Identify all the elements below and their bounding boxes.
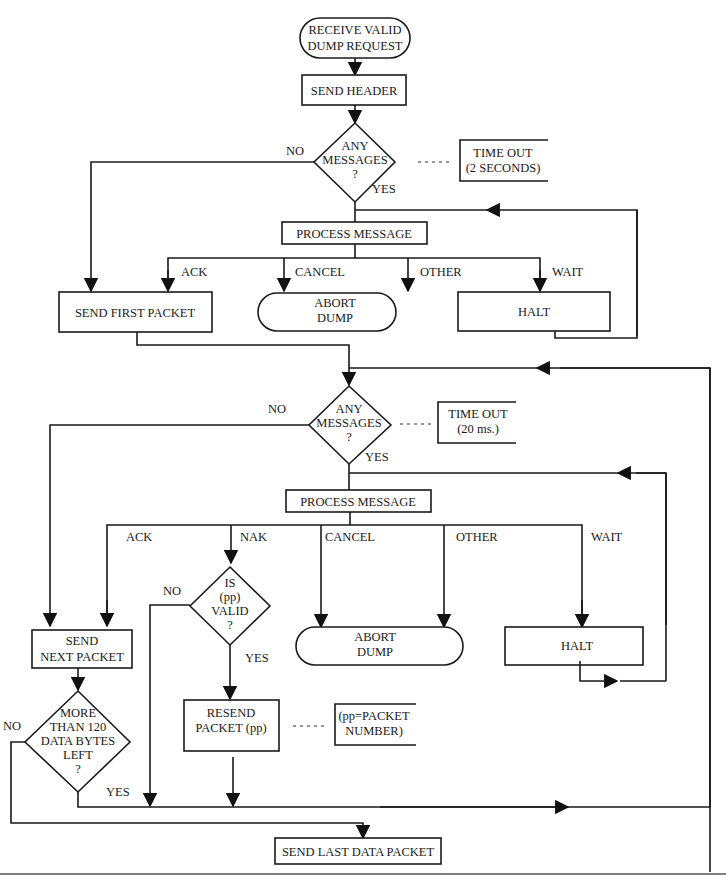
label-no-1: NO bbox=[286, 144, 304, 158]
pp-line-4: ? bbox=[227, 618, 233, 632]
label-yes-1: YES bbox=[372, 182, 396, 196]
decision1-line-1: ANY bbox=[341, 139, 368, 153]
halt-box-1: HALT bbox=[458, 292, 610, 331]
m120-line-4: LEFT bbox=[63, 748, 93, 762]
m120-line-3: DATA BYTES bbox=[41, 734, 115, 748]
label-yes-pp: YES bbox=[245, 651, 269, 665]
m120-line-5: ? bbox=[75, 762, 81, 776]
send-last-label: SEND LAST DATA PACKET bbox=[282, 845, 435, 859]
decision1-line-3: ? bbox=[352, 167, 358, 181]
send-first-packet-label: SEND FIRST PACKET bbox=[75, 306, 196, 320]
process1-label: PROCESS MESSAGE bbox=[296, 227, 412, 241]
process-message-box-2: PROCESS MESSAGE bbox=[286, 490, 431, 512]
label-wait-2: WAIT bbox=[591, 530, 623, 544]
abort-dump-terminal-2: ABORT DUMP bbox=[296, 627, 463, 665]
label-ack-1: ACK bbox=[181, 265, 207, 279]
more-than-120-decision: MORE THAN 120 DATA BYTES LEFT ? bbox=[25, 691, 130, 792]
abort1-line-1: ABORT bbox=[314, 296, 356, 310]
label-wait-1: WAIT bbox=[552, 265, 584, 279]
timeout-2-seconds-note: TIME OUT (2 SECONDS) bbox=[460, 140, 548, 181]
pp-note-line-1: (pp=PACKET bbox=[338, 709, 410, 723]
abort2-line-1: ABORT bbox=[354, 630, 396, 644]
label-cancel-1: CANCEL bbox=[295, 265, 345, 279]
abort1-line-2: DUMP bbox=[317, 311, 353, 325]
timeout2-line-2: (20 ms.) bbox=[457, 422, 499, 436]
abort2-line-2: DUMP bbox=[357, 645, 393, 659]
label-no-120: NO bbox=[3, 719, 21, 733]
label-nak-2: NAK bbox=[240, 530, 267, 544]
start-line-1: RECEIVE VALID bbox=[309, 23, 402, 37]
send-header-box: SEND HEADER bbox=[302, 75, 406, 105]
label-yes-2: YES bbox=[365, 450, 389, 464]
pp-note-line-2: NUMBER) bbox=[345, 724, 403, 738]
resend-line-2: PACKET (pp) bbox=[195, 721, 266, 735]
m120-line-1: MORE bbox=[60, 706, 96, 720]
label-ack-2: ACK bbox=[126, 530, 152, 544]
start-terminal: RECEIVE VALID DUMP REQUEST bbox=[300, 18, 410, 58]
label-other-1: OTHER bbox=[420, 265, 462, 279]
timeout1-line-2: (2 SECONDS) bbox=[466, 161, 541, 175]
label-no-2: NO bbox=[268, 402, 286, 416]
send-next-line-2: NEXT PACKET bbox=[40, 650, 124, 664]
decision1-line-2: MESSAGES bbox=[322, 153, 387, 167]
decision2-line-2: MESSAGES bbox=[316, 416, 381, 430]
start-line-2: DUMP REQUEST bbox=[307, 39, 402, 53]
send-header-label: SEND HEADER bbox=[311, 84, 398, 98]
decision2-line-1: ANY bbox=[335, 402, 362, 416]
is-pp-valid-decision: IS (pp) VALID ? bbox=[190, 567, 270, 645]
timeout2-line-1: TIME OUT bbox=[448, 407, 508, 421]
pp-line-2: (pp) bbox=[220, 590, 241, 604]
label-cancel-2: CANCEL bbox=[325, 530, 375, 544]
process-message-box-1: PROCESS MESSAGE bbox=[282, 222, 427, 244]
decision2-line-3: ? bbox=[346, 430, 352, 444]
m120-line-2: THAN 120 bbox=[50, 720, 107, 734]
timeout1-line-1: TIME OUT bbox=[473, 146, 533, 160]
timeout-20ms-note: TIME OUT (20 ms.) bbox=[438, 402, 516, 443]
label-yes-120: YES bbox=[106, 785, 130, 799]
halt-box-2: HALT bbox=[505, 627, 643, 665]
send-last-data-packet-box: SEND LAST DATA PACKET bbox=[275, 838, 441, 864]
send-first-packet-box: SEND FIRST PACKET bbox=[59, 292, 212, 332]
abort-dump-terminal-1: ABORT DUMP bbox=[258, 293, 396, 331]
flowchart-canvas: RECEIVE VALID DUMP REQUEST SEND HEADER A… bbox=[0, 0, 726, 878]
send-next-packet-box: SEND NEXT PACKET bbox=[32, 630, 132, 668]
send-next-line-1: SEND bbox=[66, 634, 99, 648]
resend-line-1: RESEND bbox=[207, 706, 256, 720]
halt2-label: HALT bbox=[561, 639, 594, 653]
resend-packet-box: RESEND PACKET (pp) bbox=[184, 700, 279, 751]
process2-label: PROCESS MESSAGE bbox=[300, 495, 416, 509]
pp-line-1: IS bbox=[224, 576, 235, 590]
label-other-2: OTHER bbox=[456, 530, 498, 544]
pp-packet-number-note: (pp=PACKET NUMBER) bbox=[335, 704, 416, 745]
pp-line-3: VALID bbox=[211, 604, 248, 618]
label-no-pp: NO bbox=[163, 584, 181, 598]
halt1-label: HALT bbox=[518, 305, 551, 319]
